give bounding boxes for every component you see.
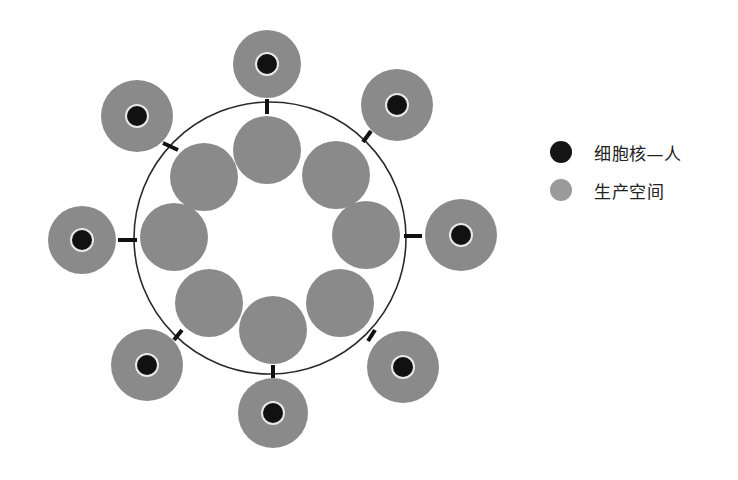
cell [48, 206, 116, 274]
cell [367, 331, 439, 403]
production-space-inner-ring [140, 116, 400, 364]
nucleus-circle [451, 225, 471, 245]
legend-label-space: 生产空间 [594, 178, 664, 203]
production-space-circle [170, 143, 238, 211]
cell [101, 80, 173, 152]
nucleus-circle [137, 355, 157, 375]
nucleus-circle [387, 95, 407, 115]
cell [233, 30, 301, 98]
production-space-circle [233, 116, 301, 184]
nucleus-circle [393, 357, 413, 377]
production-space-circle [140, 203, 208, 271]
production-space-circle [306, 269, 374, 337]
cell [111, 329, 183, 401]
nucleus-circle [72, 230, 92, 250]
legend: 细胞核—人 生产空间 [550, 133, 682, 209]
production-space-circle [175, 269, 243, 337]
production-space-circle [302, 141, 370, 209]
production-space-circle [239, 296, 307, 364]
production-space-circle [332, 201, 400, 269]
cell [238, 378, 308, 448]
cell [361, 69, 433, 141]
cell-space-diagram [0, 0, 738, 480]
nucleus-circle [127, 106, 147, 126]
connector-line [363, 131, 371, 142]
legend-label-nucleus: 细胞核—人 [594, 140, 682, 165]
legend-item-space: 生产空间 [550, 171, 682, 209]
production-space-swatch-icon [550, 179, 572, 201]
cell [425, 199, 497, 271]
nucleus-circle [257, 54, 277, 74]
outer-cells [48, 30, 497, 448]
legend-item-nucleus: 细胞核—人 [550, 133, 682, 171]
connector-line [163, 143, 178, 150]
nucleus-circle [263, 403, 283, 423]
nucleus-swatch-icon [550, 141, 572, 163]
